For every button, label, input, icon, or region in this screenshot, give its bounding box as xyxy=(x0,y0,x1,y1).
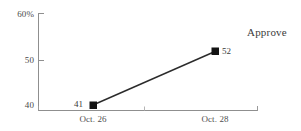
chart-plot-area xyxy=(0,0,301,131)
x-axis-tick-label-oct-28: Oct. 28 xyxy=(185,114,245,124)
data-value-label-oct-28: 52 xyxy=(222,46,231,56)
y-axis-tick-label-40: 40 xyxy=(4,100,34,110)
approval-trend-chart: 60% 50 40 Oct. 26 Oct. 28 41 52 Approve xyxy=(0,0,301,131)
x-axis-tick-label-oct-26: Oct. 26 xyxy=(63,114,123,124)
data-point-marker-oct-28[interactable] xyxy=(212,48,220,56)
series-label-approve: Approve xyxy=(247,26,287,39)
series-line-approve xyxy=(93,52,215,106)
y-axis-tick-label-50: 50 xyxy=(4,55,34,65)
data-value-label-oct-26: 41 xyxy=(74,99,83,109)
y-axis-tick-label-60: 60% xyxy=(4,9,34,19)
data-point-marker-oct-26[interactable] xyxy=(90,102,98,110)
